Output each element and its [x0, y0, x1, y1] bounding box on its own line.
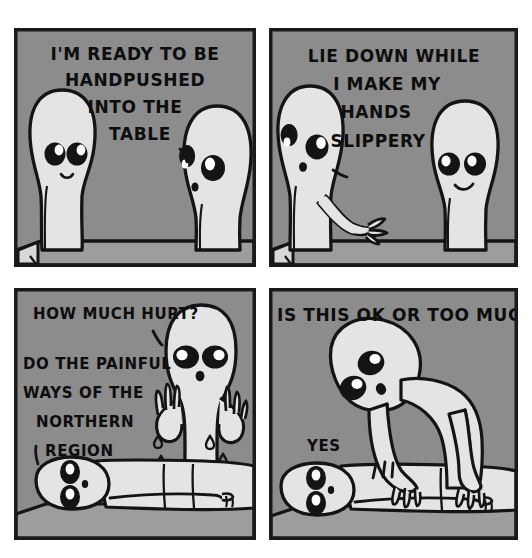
dialogue-line: LIE DOWN WHILE [308, 46, 480, 66]
dialogue-line: HANDPUSHED [65, 70, 205, 90]
dialogue-line: INTO THE [88, 97, 183, 117]
comic-panel-1: I'M READY TO BE HANDPUSHED INTO THE TABL… [14, 28, 256, 267]
dialogue-line: I MAKE MY [333, 74, 441, 94]
raised-hand-left [156, 384, 182, 442]
panel-1-artwork: I'M READY TO BE HANDPUSHED INTO THE TABL… [14, 28, 256, 267]
mouth [196, 371, 205, 381]
mouth [82, 480, 88, 488]
dialogue-line: HOW MUCH HURT? [33, 305, 199, 323]
eye-right [67, 143, 88, 166]
panel-3-artwork: HOW MUCH HURT? DO THE PAINFUL WAYS OF TH… [14, 288, 256, 540]
dialogue-line: REGION [45, 442, 114, 460]
dialogue-line: HANDS [341, 102, 412, 122]
eye-left [45, 143, 66, 166]
eye-near [306, 135, 329, 160]
panel-2-artwork: LIE DOWN WHILE I MAKE MY HANDS SLIPPERY [269, 28, 518, 267]
mouth [191, 182, 198, 191]
panel-4-artwork: IS THIS OK OR TOO MUCH? YES [269, 288, 518, 540]
comic-panel-2: LIE DOWN WHILE I MAKE MY HANDS SLIPPERY [269, 28, 518, 267]
mouth [299, 162, 307, 172]
dialogue-line: IS THIS OK OR TOO MUCH? [277, 305, 518, 325]
dialogue-line: TABLE [109, 124, 171, 144]
dialogue-line: DO THE PAINFUL [23, 355, 171, 373]
dialogue-line: YES [306, 437, 341, 455]
comic-panel-4: IS THIS OK OR TOO MUCH? YES [269, 288, 518, 540]
comic-panel-3: HOW MUCH HURT? DO THE PAINFUL WAYS OF TH… [14, 288, 256, 540]
dialogue-line: NORTHERN [36, 413, 134, 431]
dialogue-line: SLIPPERY [330, 131, 425, 151]
comic-strip: I'M READY TO BE HANDPUSHED INTO THE TABL… [0, 0, 532, 558]
dialogue-line: I'M READY TO BE [51, 44, 220, 64]
mouth [328, 486, 334, 494]
dialogue-line: WAYS OF THE [23, 384, 144, 402]
character-client-lying [36, 457, 254, 510]
